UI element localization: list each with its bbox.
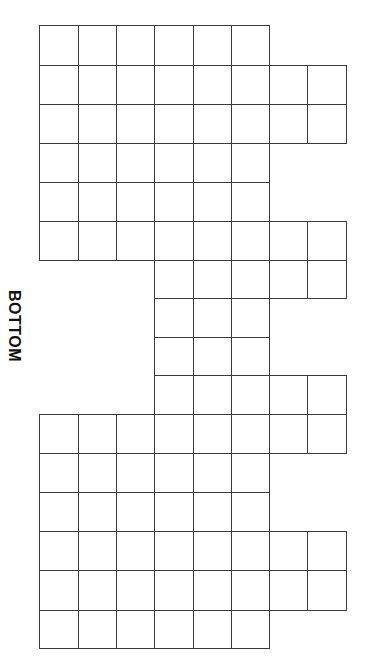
grid-cell — [193, 375, 232, 415]
grid-cell — [154, 65, 194, 105]
grid-cell — [193, 143, 232, 183]
grid-cell — [39, 453, 79, 493]
grid-cell — [231, 492, 270, 532]
grid-cell — [193, 492, 232, 532]
grid-cell — [78, 143, 117, 183]
grid-cell — [39, 182, 79, 222]
grid-cell — [269, 375, 308, 415]
cell-grid-diagram — [0, 0, 372, 668]
grid-cell — [193, 298, 232, 338]
grid-cell — [154, 610, 194, 649]
grid-cell — [116, 25, 155, 66]
grid-cell — [193, 221, 232, 261]
grid-cell — [231, 453, 270, 493]
grid-cell — [116, 143, 155, 183]
grid-cell — [78, 492, 117, 532]
grid-cell — [78, 414, 117, 454]
grid-cell — [39, 221, 79, 261]
grid-cell — [231, 143, 270, 183]
grid-cell — [231, 182, 270, 222]
grid-cell — [231, 337, 270, 376]
grid-cell — [116, 221, 155, 261]
grid-cell — [231, 570, 270, 611]
grid-cell — [116, 570, 155, 611]
grid-cell — [231, 260, 270, 299]
grid-cell — [39, 610, 79, 649]
grid-cell — [269, 260, 308, 299]
grid-cell — [116, 531, 155, 571]
grid-cell — [269, 65, 308, 105]
grid-cell — [307, 221, 347, 261]
grid-cell — [116, 453, 155, 493]
grid-cell — [78, 453, 117, 493]
grid-cell — [39, 492, 79, 532]
grid-cell — [231, 298, 270, 338]
grid-cell — [193, 453, 232, 493]
grid-cell — [154, 531, 194, 571]
grid-cell — [39, 570, 79, 611]
grid-cell — [269, 570, 308, 611]
grid-cell — [154, 143, 194, 183]
grid-cell — [231, 221, 270, 261]
grid-cell — [78, 25, 117, 66]
grid-cell — [231, 25, 270, 66]
grid-cell — [154, 221, 194, 261]
grid-cell — [307, 570, 347, 611]
grid-cell — [154, 375, 194, 415]
grid-cell — [78, 570, 117, 611]
grid-cell — [231, 531, 270, 571]
grid-cell — [39, 65, 79, 105]
grid-cell — [231, 375, 270, 415]
grid-cell — [78, 104, 117, 144]
grid-cell — [154, 337, 194, 376]
grid-cell — [269, 221, 308, 261]
grid-cell — [269, 104, 308, 144]
grid-cell — [231, 65, 270, 105]
grid-cell — [39, 25, 79, 66]
grid-cell — [231, 104, 270, 144]
grid-cell — [154, 453, 194, 493]
grid-cell — [78, 531, 117, 571]
grid-cell — [193, 182, 232, 222]
grid-cell — [307, 531, 347, 571]
grid-cell — [193, 337, 232, 376]
grid-cell — [231, 610, 270, 649]
grid-cell — [78, 610, 117, 649]
grid-cell — [193, 414, 232, 454]
grid-cell — [39, 104, 79, 144]
grid-cell — [154, 260, 194, 299]
grid-cell — [269, 531, 308, 571]
grid-cell — [154, 25, 194, 66]
grid-cell — [78, 65, 117, 105]
bottom-label: BOTTOM — [5, 290, 23, 362]
grid-cell — [307, 260, 347, 299]
grid-cell — [193, 610, 232, 649]
grid-cell — [193, 531, 232, 571]
grid-cell — [307, 414, 347, 454]
grid-cell — [193, 570, 232, 611]
grid-cell — [307, 65, 347, 105]
grid-cell — [154, 104, 194, 144]
grid-cell — [39, 414, 79, 454]
grid-cell — [154, 570, 194, 611]
grid-cell — [154, 414, 194, 454]
grid-cell — [231, 414, 270, 454]
grid-cell — [307, 375, 347, 415]
grid-cell — [116, 492, 155, 532]
grid-cell — [78, 182, 117, 222]
grid-cell — [39, 143, 79, 183]
grid-cell — [193, 65, 232, 105]
grid-cell — [39, 531, 79, 571]
grid-cell — [116, 65, 155, 105]
grid-cell — [154, 298, 194, 338]
grid-cell — [116, 182, 155, 222]
grid-cell — [307, 104, 347, 144]
grid-cell — [154, 492, 194, 532]
grid-cell — [193, 260, 232, 299]
grid-cell — [193, 104, 232, 144]
grid-cell — [193, 25, 232, 66]
grid-cell — [116, 414, 155, 454]
grid-cell — [116, 104, 155, 144]
grid-cell — [116, 610, 155, 649]
grid-cell — [154, 182, 194, 222]
